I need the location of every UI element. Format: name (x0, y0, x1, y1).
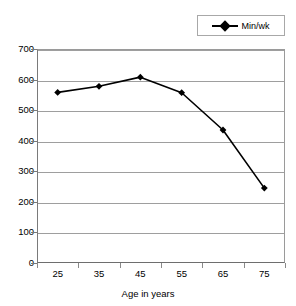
y-axis-tick-label: 500 (0, 105, 34, 115)
diamond-marker-icon (212, 20, 238, 31)
y-axis-tick-label: 0 (0, 258, 34, 268)
x-axis-tick-mark (78, 263, 79, 268)
x-axis-title: Age in years (0, 288, 296, 299)
data-point-marker (96, 83, 103, 90)
line-chart: Min/wk 0100200300400500600700 2535455565… (0, 0, 296, 306)
x-axis-tick-label: 45 (120, 268, 160, 279)
y-axis-tick-label: 400 (0, 136, 34, 146)
x-axis-tick-label: 25 (38, 268, 78, 279)
x-axis-tick-label: 55 (162, 268, 202, 279)
x-axis-tick-mark (202, 263, 203, 268)
legend-item-min-wk: Min/wk (212, 20, 269, 31)
y-axis-tick-label: 200 (0, 197, 34, 207)
x-axis-tick-label: 65 (203, 268, 243, 279)
x-axis-tick-mark (161, 263, 162, 268)
x-axis-tick-mark (37, 263, 38, 268)
x-axis-tick-mark (120, 263, 121, 268)
chart-legend: Min/wk (197, 15, 285, 36)
data-series-min-wk (37, 49, 285, 263)
y-axis-tick-label: 300 (0, 166, 34, 176)
data-point-marker (137, 74, 144, 81)
y-axis-tick-label: 100 (0, 227, 34, 237)
x-axis-tick-label: 35 (79, 268, 119, 279)
y-axis-tick-label: 700 (0, 44, 34, 54)
x-axis-tick-label: 75 (244, 268, 284, 279)
x-axis-tick-mark (285, 263, 286, 268)
x-axis-tick-mark (244, 263, 245, 268)
y-axis-tick-label: 600 (0, 75, 34, 85)
series-line (58, 77, 265, 188)
data-point-marker (54, 89, 61, 96)
legend-item-label: Min/wk (241, 21, 269, 31)
